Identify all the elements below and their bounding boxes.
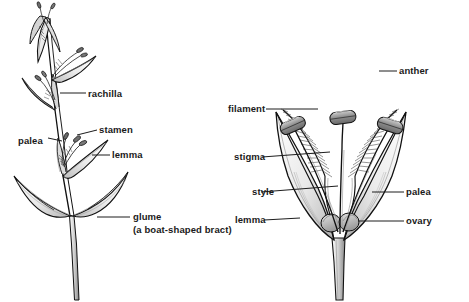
leader-lemma-right xyxy=(264,218,300,220)
label-style: style xyxy=(252,186,274,197)
label-lemma-left: lemma xyxy=(112,149,143,160)
label-lemma-right: lemma xyxy=(235,214,266,225)
spikelet-upper-right xyxy=(52,47,96,83)
label-glume-note: (a boat-shaped bract) xyxy=(133,224,232,235)
label-rachilla: rachilla xyxy=(88,88,122,99)
label-palea-right: palea xyxy=(406,186,431,197)
anther-center xyxy=(329,109,356,125)
label-stamen: stamen xyxy=(99,124,133,135)
label-ovary: ovary xyxy=(406,215,432,226)
right-floret-artwork xyxy=(261,71,406,300)
spikelet-terminal xyxy=(30,1,60,62)
leader-stamen xyxy=(77,130,97,135)
label-palea-left: palea xyxy=(18,135,43,146)
label-anther: anther xyxy=(399,65,429,76)
spikelet-middle xyxy=(22,70,59,110)
botanical-figure: rachilla stamen palea lemma glume (a boa… xyxy=(0,0,469,302)
leader-palea xyxy=(48,138,62,141)
label-stigma: stigma xyxy=(234,151,265,162)
label-glume: glume xyxy=(133,211,161,222)
label-filament: filament xyxy=(228,103,265,114)
